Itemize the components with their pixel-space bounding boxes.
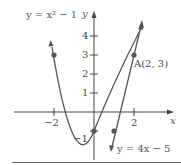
y-tick-2: 2 xyxy=(82,69,88,79)
point-vertex xyxy=(91,128,96,133)
y-axis-label: y xyxy=(82,9,88,19)
tangent-line xyxy=(112,26,141,147)
parabola-label: y = x² − 1 xyxy=(26,10,77,20)
y-tick-neg1: −1 xyxy=(73,134,88,144)
point-left xyxy=(51,52,56,57)
tangent-arrow-top-icon xyxy=(139,20,144,28)
point-a xyxy=(131,52,136,57)
parabola-arrow-icon xyxy=(49,40,54,47)
point-tangent xyxy=(111,128,116,133)
tangent-arrow-bottom-icon xyxy=(109,145,114,152)
x-tick-neg2: −2 xyxy=(44,118,59,128)
y-tick-3: 3 xyxy=(82,50,88,60)
tangent-label: y = 4x − 5 xyxy=(117,144,171,154)
x-axis-arrow-icon xyxy=(167,110,174,115)
graph-canvas xyxy=(0,0,181,165)
x-tick-2: 2 xyxy=(131,118,137,128)
y-tick-1: 1 xyxy=(82,88,88,98)
x-axis-label: x xyxy=(170,116,176,126)
y-axis-arrow-icon xyxy=(92,11,97,18)
point-a-label: A(2, 3) xyxy=(134,59,168,69)
y-tick-4: 4 xyxy=(82,31,88,41)
bottom-rule xyxy=(12,162,181,163)
